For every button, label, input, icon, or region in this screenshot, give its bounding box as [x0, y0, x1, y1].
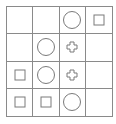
grid-cell-r1-c1: [7, 7, 33, 34]
grid-cell-r2-c1: [7, 34, 33, 61]
grid-cell-r3-c4: [86, 62, 112, 89]
circle-icon: [62, 92, 82, 112]
grid-cell-r1-c2: [33, 7, 59, 34]
grid-cell-r1-c4: [86, 7, 112, 34]
grid-cell-r4-c3: [60, 89, 86, 116]
grid-cell-r4-c4: [86, 89, 112, 116]
square-icon: [14, 69, 26, 81]
grid-cell-r2-c2: [33, 34, 59, 61]
square-icon: [40, 96, 52, 108]
grid-cell-r1-c3: [60, 7, 86, 34]
grid-cell-r3-c2: [33, 62, 59, 89]
circle-icon: [36, 37, 56, 57]
square-icon: [14, 96, 26, 108]
grid-cell-r4-c1: [7, 89, 33, 116]
grid-cell-r4-c2: [33, 89, 59, 116]
grid-cell-r2-c3: [60, 34, 86, 61]
grid-cell-r3-c3: [60, 62, 86, 89]
puzzle-grid: [6, 6, 113, 117]
square-icon: [93, 14, 105, 26]
circle-icon: [36, 65, 56, 85]
grid-cell-r2-c4: [86, 34, 112, 61]
plus-icon: [66, 69, 78, 81]
circle-icon: [62, 10, 82, 30]
plus-icon: [66, 41, 78, 53]
grid-cell-r3-c1: [7, 62, 33, 89]
